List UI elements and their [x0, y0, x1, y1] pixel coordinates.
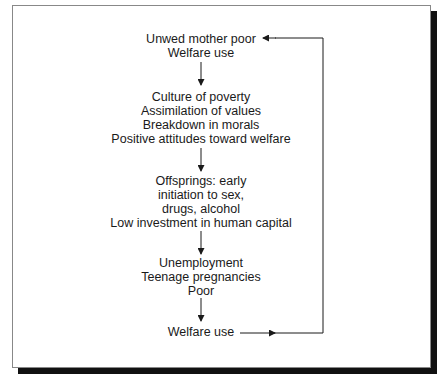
arrows-layer [0, 0, 443, 382]
feedback-loop-arrow-icon [240, 38, 323, 333]
